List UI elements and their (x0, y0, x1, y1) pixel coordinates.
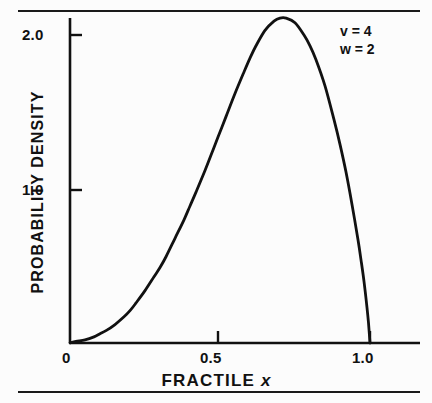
figure-panel: 2.0 1.0 0 0.5 1.0 FRACTILE x PROBABILITY… (0, 0, 432, 403)
x-axis-title: FRACTILE x (0, 371, 432, 391)
x-axis-title-text: FRACTILE (161, 371, 255, 390)
x-tick-label-05: 0.5 (200, 349, 221, 366)
y-tick-label-2: 2.0 (22, 26, 43, 43)
x-axis-variable: x (261, 371, 270, 390)
annotation-w: w = 2 (340, 41, 375, 57)
plot-area (0, 0, 432, 403)
density-curve (70, 18, 370, 343)
annotation-v: v = 4 (340, 23, 372, 39)
bottom-horizontal-rule (18, 391, 420, 393)
x-tick-label-10: 1.0 (352, 349, 373, 366)
x-tick-label-0: 0 (62, 349, 71, 366)
y-axis-title: PROBABILITY DENSITY (29, 57, 47, 327)
